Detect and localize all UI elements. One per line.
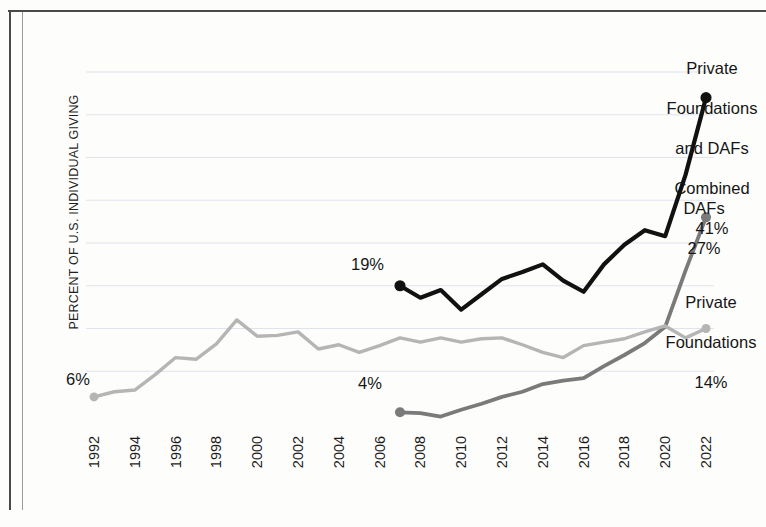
annotation-pf-line1: Private — [656, 292, 766, 312]
annotation-combined-line2: Foundations — [660, 98, 764, 118]
x-tick-label: 2012 — [494, 422, 510, 482]
x-tick-label: 2022 — [698, 422, 714, 482]
x-tick-label: 1998 — [208, 422, 224, 482]
annotation-combined-line1: Private — [660, 58, 764, 78]
x-tick-label: 2018 — [616, 422, 632, 482]
x-tick-label: 2006 — [372, 422, 388, 482]
chart-figure: PERCENT OF U.S. INDIVIDUAL GIVING 199219… — [0, 0, 766, 527]
annotation-pf-line2: Foundations — [656, 332, 766, 352]
x-tick-label: 2020 — [657, 422, 673, 482]
x-tick-label: 1994 — [127, 422, 143, 482]
x-tick-label: 1992 — [86, 422, 102, 482]
x-tick-label: 2010 — [453, 422, 469, 482]
start-label-dafs: 4% — [358, 374, 382, 393]
x-tick-label: 2008 — [412, 422, 428, 482]
annotation-combined-line3: and DAFs — [660, 138, 764, 158]
start-label-combined: 19% — [351, 255, 384, 274]
x-tick-label: 2014 — [535, 422, 551, 482]
annotation-pf-value: 14% — [656, 372, 766, 392]
x-tick-label: 1996 — [168, 422, 184, 482]
start-label-private-foundations: 6% — [66, 370, 90, 389]
annotation-private-foundations: Private Foundations 14% — [656, 272, 766, 412]
annotation-dafs: DAFs 27% — [662, 178, 746, 278]
x-tick-label: 2000 — [249, 422, 265, 482]
annotation-dafs-value: 27% — [662, 238, 746, 258]
x-tick-label: 2002 — [290, 422, 306, 482]
x-tick-label: 2016 — [576, 422, 592, 482]
x-tick-label: 2004 — [331, 422, 347, 482]
annotation-dafs-line1: DAFs — [662, 198, 746, 218]
